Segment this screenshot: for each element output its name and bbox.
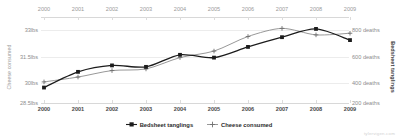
cheese-consumed-line bbox=[44, 28, 350, 82]
bedsheet-tanglings-markers bbox=[42, 27, 352, 89]
chart-legend: Bedsheet tanglings Cheese consumed bbox=[0, 121, 398, 128]
legend-item-bedsheet-tanglings: Bedsheet tanglings bbox=[126, 121, 193, 128]
plus-marker-icon bbox=[207, 121, 218, 128]
legend-label-cheese-consumed: Cheese consumed bbox=[221, 122, 272, 128]
spurious-correlation-chart: Cheese consumed Bedsheet tanglings 33lbs… bbox=[0, 0, 398, 137]
legend-label-bedsheet-tanglings: Bedsheet tanglings bbox=[140, 122, 193, 128]
plot-area bbox=[0, 0, 398, 137]
filled-square-marker-icon bbox=[126, 121, 137, 128]
legend-item-cheese-consumed: Cheese consumed bbox=[207, 121, 272, 128]
bedsheet-tanglings-line bbox=[44, 29, 350, 88]
watermark: tylervigen.com bbox=[364, 131, 395, 136]
